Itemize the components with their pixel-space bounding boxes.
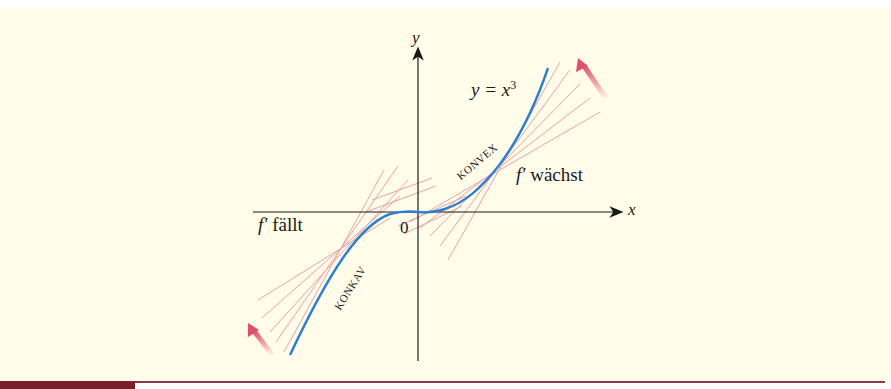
cubic-concavity-diagram	[0, 0, 891, 389]
decreasing-text: fällt	[272, 214, 303, 235]
f-prime-symbol: f′	[258, 214, 267, 235]
origin-label: 0	[400, 218, 409, 238]
x-axis-label: x	[628, 200, 636, 220]
f-prime-decreasing-label: f′ fällt	[258, 214, 303, 236]
f-prime-increasing-label: f′ wächst	[516, 164, 583, 186]
increasing-text: wächst	[530, 164, 583, 185]
tangent-lines-left	[258, 166, 436, 352]
curve-label-prefix: y = x	[471, 79, 510, 100]
axes	[253, 48, 622, 361]
arrow-lower-left-icon	[248, 323, 273, 356]
f-prime-symbol: f′	[516, 164, 525, 185]
curve-label-exponent: 3	[510, 78, 516, 92]
curve-label: y = x3	[471, 78, 516, 101]
arrow-upper-right-icon	[576, 58, 607, 100]
footer-color-block	[0, 381, 135, 389]
y-axis-label: y	[412, 28, 420, 48]
footer-divider	[135, 381, 885, 383]
